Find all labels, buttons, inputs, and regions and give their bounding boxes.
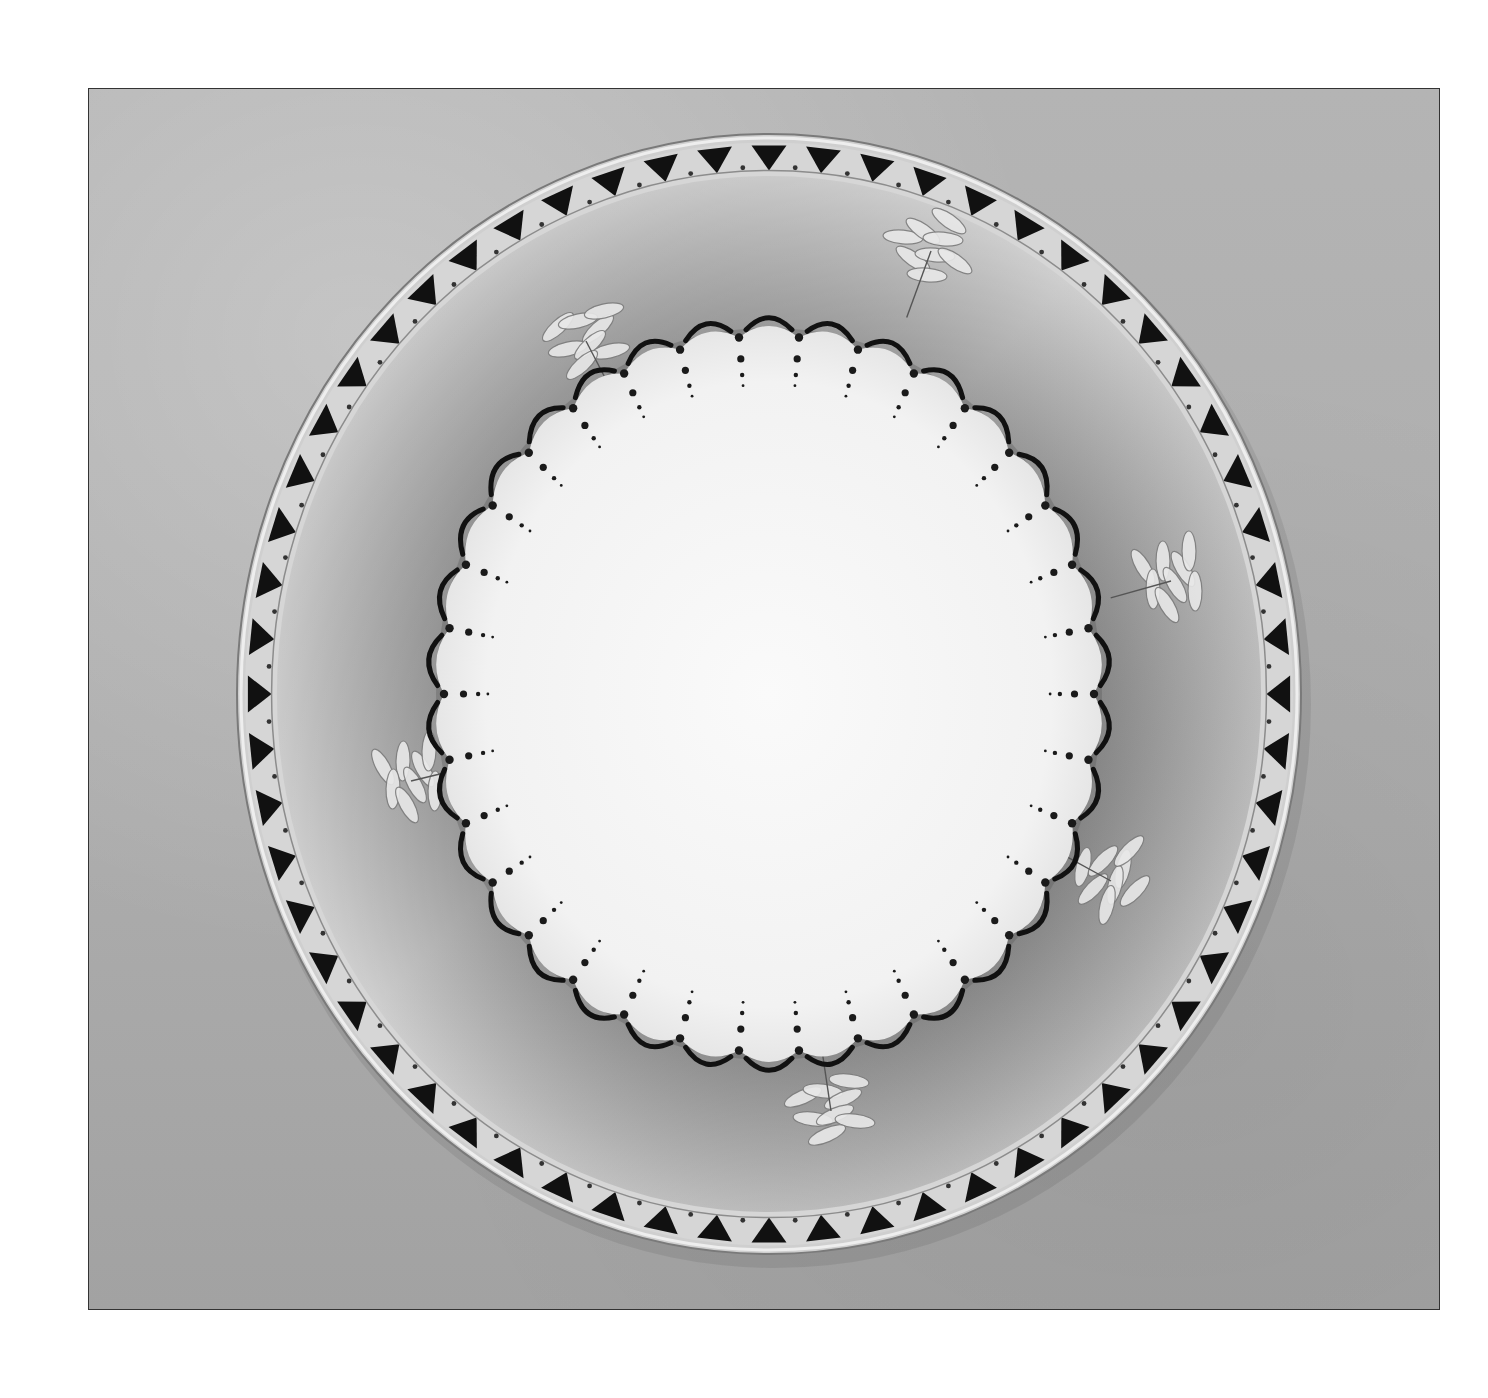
scallop-dot (794, 373, 798, 377)
scallop-dot (902, 389, 909, 396)
rim-dot (793, 1218, 798, 1223)
scallop-dot (1014, 860, 1018, 864)
scallop-dot (569, 404, 577, 412)
scallop-dot (950, 422, 957, 429)
scallop-dot (481, 812, 488, 819)
rim-dot (1121, 1064, 1126, 1069)
rim-dot (896, 1201, 901, 1206)
scallop-dot (845, 990, 848, 993)
scallop-dot (1044, 750, 1047, 753)
scallop-dot (529, 856, 532, 859)
rim-dot (688, 171, 693, 176)
scallop-dot (845, 395, 848, 398)
scallop-dot (581, 959, 588, 966)
rim-dot (740, 165, 745, 170)
scallop-dot (691, 395, 694, 398)
plate (237, 134, 1311, 1268)
rim-dot (321, 452, 326, 457)
scallop-dot (1007, 530, 1010, 533)
scallop-dot (560, 901, 563, 904)
center-field (429, 318, 1110, 1071)
rim-dot (413, 1064, 418, 1069)
scallop-dot (506, 868, 513, 875)
scallop-dot (1071, 690, 1078, 697)
scallop-dot (486, 693, 489, 696)
scallop-dot (975, 901, 978, 904)
rim-dot (994, 222, 999, 227)
scallop-dot (849, 1014, 856, 1021)
scallop-dot (676, 345, 684, 353)
scallop-dot (1068, 819, 1076, 827)
scallop-dot (794, 384, 797, 387)
scallop-dot (1025, 868, 1032, 875)
scallop-dot (794, 355, 801, 362)
scallop-dot (893, 415, 896, 418)
scallop-dot (910, 369, 918, 377)
scallop-dot (737, 1025, 744, 1032)
scallop-dot (529, 530, 532, 533)
scallop-dot (496, 576, 500, 580)
scallop-dot (982, 908, 986, 912)
scallop-dot (1038, 808, 1042, 812)
scallop-dot (525, 449, 533, 457)
scallop-dot (961, 975, 969, 983)
scallop-dot (991, 917, 998, 924)
rim-dot (793, 165, 798, 170)
scallop-dot (481, 569, 488, 576)
scallop-dot (942, 436, 946, 440)
scallop-dot (846, 1000, 850, 1004)
scallop-dot (481, 751, 485, 755)
rim-dot (587, 200, 592, 205)
scallop-dot (1053, 751, 1057, 755)
scallop-dot (1053, 633, 1057, 637)
rim-dot (1267, 664, 1272, 669)
plate-photo (89, 89, 1440, 1310)
rim-dot (946, 200, 951, 205)
scallop-dot (937, 940, 940, 943)
scallop-dot (1066, 629, 1073, 636)
scallop-dot (737, 355, 744, 362)
scallop-dot (902, 992, 909, 999)
rim-dot (1213, 931, 1218, 936)
scallop-dot (1030, 804, 1033, 807)
rim-dot (1121, 319, 1126, 324)
scallop-dot (896, 405, 900, 409)
rim-dot (1082, 282, 1087, 287)
scallop-dot (465, 752, 472, 759)
scallop-dot (1044, 636, 1047, 639)
scallop-dot (525, 931, 533, 939)
petal (1188, 571, 1202, 611)
scallop-dot (506, 513, 513, 520)
rim-dot (283, 555, 288, 560)
rim-dot (1250, 555, 1255, 560)
scallop-dot (569, 975, 577, 983)
scallop-dot (540, 917, 547, 924)
scallop-dot (1038, 576, 1042, 580)
scallop-dot (849, 367, 856, 374)
rim-dot (378, 360, 383, 365)
scallop-dot (642, 970, 645, 973)
scallop-dot (598, 445, 601, 448)
scallop-dot (491, 750, 494, 753)
scallop-dot (1014, 523, 1018, 527)
rim-dot (845, 1212, 850, 1217)
scallop-dot (950, 959, 957, 966)
scallop-dot (794, 1011, 798, 1015)
rim-dot (1082, 1101, 1087, 1106)
scallop-dot (1050, 812, 1057, 819)
scallop-dot (795, 333, 803, 341)
scallop-dot (975, 484, 978, 487)
scallop-dot (991, 464, 998, 471)
rim-dot (1267, 719, 1272, 724)
scallop-dot (1049, 693, 1052, 696)
scallop-dot (910, 1010, 918, 1018)
rim-dot (1234, 880, 1239, 885)
scallop-dot (552, 476, 556, 480)
rim-dot (1261, 609, 1266, 614)
scallop-dot (505, 581, 508, 584)
scallop-dot (1066, 752, 1073, 759)
scallop-dot (481, 633, 485, 637)
scallop-dot (581, 422, 588, 429)
scallop-dot (620, 1010, 628, 1018)
rim-dot (1156, 360, 1161, 365)
